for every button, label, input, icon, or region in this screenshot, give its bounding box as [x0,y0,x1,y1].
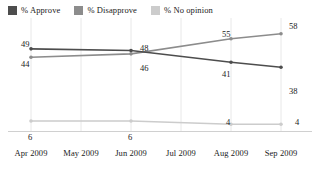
x-axis: Apr 2009 May 2009 Jun 2009 Jul 2009 Aug … [0,148,318,164]
legend-label-approve: % Approve [21,5,60,15]
point-label-disapprove-aug: 55 [222,30,231,39]
data-point-marker [279,65,283,69]
legend-swatch-icon-no-opinion [151,6,160,15]
point-label-approve-aug: 41 [222,70,231,79]
point-label-approve-sep: 38 [289,87,298,96]
legend-item-disapprove[interactable]: % Disapprove [74,5,137,15]
chart-legend: % Approve % Disapprove % No opinion [8,3,227,17]
point-label-approve-jun: 48 [140,44,149,53]
x-tick-label-2: Jun 2009 [115,148,147,158]
data-point-marker [129,119,133,123]
data-point-marker [279,122,283,126]
point-label-approve-apr: 49 [21,40,30,49]
legend-swatch-icon-disapprove [74,6,83,15]
x-tick-label-1: May 2009 [63,148,99,158]
plot-area [0,18,318,144]
legend-swatch-icon-approve [8,6,17,15]
series-line-approve [31,49,281,67]
plot-svg [0,18,318,144]
x-tick-label-4: Aug 2009 [214,148,249,158]
data-point-marker [29,119,33,123]
point-label-no-opinion-aug: 4 [226,118,230,127]
x-tick-label-5: Sep 2009 [265,148,298,158]
x-tick-label-0: Apr 2009 [14,148,47,158]
point-label-no-opinion-sep: 4 [295,118,299,127]
legend-item-no-opinion[interactable]: % No opinion [151,5,213,15]
series-line-noopinion [31,121,281,124]
legend-item-approve[interactable]: % Approve [8,5,60,15]
point-label-disapprove-sep: 58 [289,22,298,31]
data-point-marker [229,60,233,64]
legend-label-no-opinion: % No opinion [164,5,213,15]
point-label-no-opinion-apr: 6 [28,133,32,142]
data-point-marker [129,49,133,53]
point-label-disapprove-jun: 46 [140,64,149,73]
x-tick-label-3: Jul 2009 [166,148,196,158]
point-label-disapprove-apr: 44 [21,60,30,69]
data-point-marker [29,47,33,51]
point-label-no-opinion-jun: 6 [128,133,132,142]
data-point-marker [279,32,283,36]
legend-label-disapprove: % Disapprove [87,5,137,15]
data-point-marker [129,52,133,56]
line-chart-figure: % Approve % Disapprove % No opinion 49 4… [0,0,318,176]
